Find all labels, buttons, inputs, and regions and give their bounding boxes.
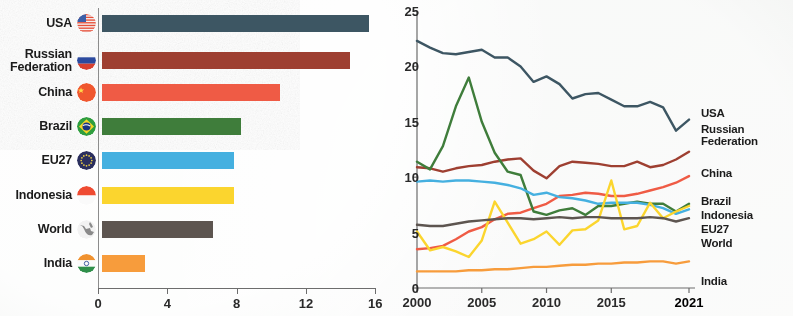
legend-label-eu27: EU27 [701, 224, 729, 236]
legend-label-line1: Brazil [701, 196, 731, 208]
bar-row-label-line1: Brazil [0, 120, 72, 133]
figure-page: USARussianFederationChinaBrazilEU27Indon… [0, 0, 793, 316]
legend-label-india: India [701, 276, 727, 288]
bar-row-label-line2: Federation [0, 61, 72, 74]
line-x-tick-label: 2010 [532, 295, 561, 310]
line-y-tick-label: 25 [393, 4, 419, 19]
legend-label-line1: EU27 [701, 224, 729, 236]
legend-label-usa: USA [701, 108, 725, 120]
legend-label-line2: Federation [701, 136, 758, 148]
bar-world [102, 221, 213, 238]
bar-row-label: USA [0, 17, 77, 30]
bar-row-label-line1: China [0, 86, 72, 99]
bar-x-tick-label: 0 [94, 296, 101, 311]
bar-row-brazil: Brazil [0, 117, 393, 136]
bar-x-tick-mark [306, 288, 307, 294]
bar-row-label: RussianFederation [0, 48, 77, 73]
line-x-tick-label: 2015 [597, 295, 626, 310]
bar-indonesia [102, 187, 234, 204]
legend-label-indonesia: Indonesia [701, 210, 753, 222]
bar-row-eu27: EU27 [0, 151, 393, 170]
bar-china [102, 84, 280, 101]
line-series-eu27 [417, 181, 689, 214]
line-x-tick-label: 2000 [403, 295, 432, 310]
legend-label-line1: India [701, 276, 727, 288]
flag-indonesia-icon [77, 186, 96, 205]
bar-row-label-line1: World [0, 223, 72, 236]
line-y-tick-label: 15 [393, 114, 419, 129]
flag-brazil-icon [77, 117, 96, 136]
legend-label-line1: China [701, 168, 732, 180]
flag-china-icon [77, 83, 96, 102]
legend-label-brazil: Brazil [701, 196, 731, 208]
legend-label-line1: World [701, 238, 732, 250]
line-series-usa [417, 41, 689, 131]
bar-x-tick-mark [167, 288, 168, 294]
line-y-tick-label: 5 [393, 225, 419, 240]
bar-row-label: World [0, 223, 77, 236]
bar-row-china: China [0, 83, 393, 102]
bar-usa [102, 15, 369, 32]
bar-x-tick-label: 16 [368, 296, 382, 311]
bar-row-russian: RussianFederation [0, 48, 393, 73]
bar-row-indonesia: Indonesia [0, 186, 393, 205]
bar-row-world: World [0, 220, 393, 239]
line-chart-plot [393, 0, 793, 316]
bar-x-tick-mark [375, 288, 376, 294]
flag-usa-icon [77, 14, 96, 33]
flag-russia-icon [77, 51, 96, 70]
flag-india-icon [77, 254, 96, 273]
line-y-tick-label: 0 [393, 281, 419, 296]
bar-row-label: India [0, 257, 77, 270]
bar-row-india: India [0, 254, 393, 273]
bar-row-label-line1: EU27 [0, 154, 72, 167]
line-series-world [417, 217, 689, 226]
line-chart-panel: 2520151050 20002005201020152021 USARussi… [393, 0, 793, 316]
legend-label-china: China [701, 168, 732, 180]
bar-x-tick-label: 8 [233, 296, 240, 311]
bar-row-label: Brazil [0, 120, 77, 133]
legend-label-russian: RussianFederation [701, 124, 758, 148]
bar-row-label: Indonesia [0, 189, 77, 202]
line-x-tick-label: 2005 [467, 295, 496, 310]
bar-chart-panel: USARussianFederationChinaBrazilEU27Indon… [0, 0, 393, 316]
bar-eu27 [102, 152, 234, 169]
bar-row-label-line1: India [0, 257, 72, 270]
bar-x-tick-mark [98, 288, 99, 294]
bar-row-label-line1: USA [0, 17, 72, 30]
line-series-india [417, 261, 689, 271]
bar-row-usa: USA [0, 14, 393, 33]
legend-label-line1: USA [701, 108, 725, 120]
flag-world-icon [77, 220, 96, 239]
line-series-russian-federation [417, 152, 689, 179]
bar-row-label-line1: Indonesia [0, 189, 72, 202]
bar-row-label: EU27 [0, 154, 77, 167]
bar-x-tick-label: 4 [164, 296, 171, 311]
line-y-tick-label: 20 [393, 59, 419, 74]
line-y-tick-label: 10 [393, 170, 419, 185]
legend-label-world: World [701, 238, 732, 250]
bar-x-tick-mark [237, 288, 238, 294]
bar-india [102, 255, 145, 272]
flag-eu27-icon [77, 151, 96, 170]
bar-russian [102, 52, 350, 69]
bar-row-label-line1: Russian [0, 48, 72, 61]
legend-label-line1: Indonesia [701, 210, 753, 222]
bar-row-label: China [0, 86, 77, 99]
bar-x-tick-label: 12 [299, 296, 313, 311]
bar-brazil [102, 118, 241, 135]
line-x-tick-label: 2021 [675, 295, 704, 310]
